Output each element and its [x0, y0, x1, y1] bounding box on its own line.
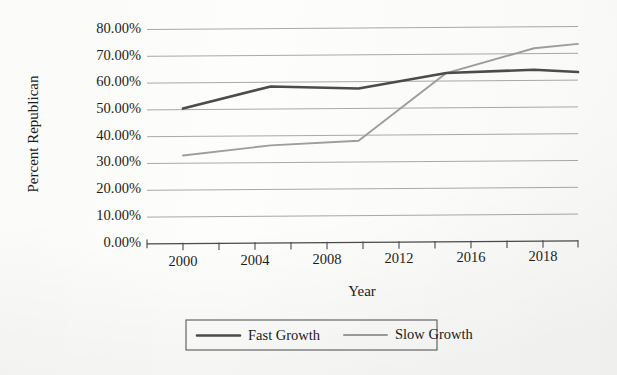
- y-tick-label: 80.00%: [96, 20, 141, 36]
- gridline-50: [147, 107, 578, 110]
- y-tick-label: 40.00%: [96, 127, 141, 143]
- y-tick-label: 10.00%: [96, 207, 141, 223]
- series-group: [183, 44, 578, 156]
- y-axis-title: Percent Republican: [25, 75, 41, 193]
- y-tick-label: 70.00%: [96, 47, 141, 63]
- x-tick-label: 2012: [385, 250, 414, 266]
- y-axis-title-text: Percent Republican: [25, 75, 41, 193]
- x-tick-label: 2004: [241, 252, 271, 268]
- x-tick-label: 2000: [169, 253, 198, 269]
- x-axis-title-text: Year: [348, 283, 376, 299]
- y-tick-label: 0.00%: [104, 234, 141, 250]
- gridline-60: [147, 80, 578, 83]
- chart-legend: Fast Growth Slow Growth: [186, 320, 473, 350]
- y-tick-label: 50.00%: [96, 100, 141, 116]
- chart-svg: Percent Republican 80.00% 70.00% 60.00% …: [0, 0, 617, 375]
- gridline-20: [147, 187, 578, 190]
- chart-page: Percent Republican 80.00% 70.00% 60.00% …: [0, 0, 617, 375]
- x-tick-label: 2018: [529, 248, 558, 264]
- y-tick-label: 20.00%: [96, 180, 141, 196]
- x-tick-label: 2016: [457, 249, 486, 265]
- legend-label-slow-growth: Slow Growth: [395, 326, 473, 342]
- y-tick-label: 60.00%: [96, 73, 141, 89]
- gridline-80: [147, 27, 578, 30]
- x-tick-label: 2008: [313, 251, 342, 267]
- gridline-10: [147, 214, 578, 217]
- series-line-slow-growth: [183, 44, 578, 156]
- x-tick-labels: 2000 2004 2008 2012 2016 2018: [169, 248, 558, 269]
- gridline-30: [147, 161, 578, 164]
- y-tick-label: 30.00%: [96, 153, 141, 169]
- gridline-40: [147, 134, 578, 137]
- y-tick-labels: 80.00% 70.00% 60.00% 50.00% 40.00% 30.00…: [96, 20, 141, 250]
- series-line-fast-growth: [183, 70, 578, 109]
- line-chart: Percent Republican 80.00% 70.00% 60.00% …: [0, 0, 617, 375]
- legend-label-fast-growth: Fast Growth: [248, 327, 321, 343]
